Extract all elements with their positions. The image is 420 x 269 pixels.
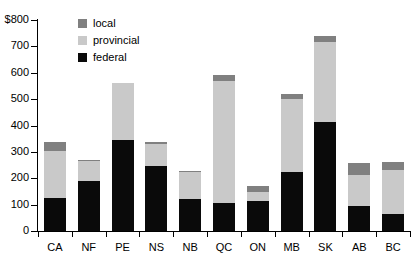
x-axis-tick [106, 232, 107, 237]
bar-qc[interactable] [213, 75, 235, 231]
bar-bc[interactable] [382, 162, 404, 231]
x-axis-label-sk: SK [308, 241, 342, 253]
legend-swatch-icon [78, 53, 87, 62]
x-axis-label-ca: CA [38, 241, 72, 253]
x-axis-tick [139, 232, 140, 237]
y-axis-tick [31, 73, 37, 74]
y-axis-tick-label: 600 [11, 67, 29, 78]
bar-pe[interactable] [112, 83, 134, 231]
x-axis-tick [38, 232, 39, 237]
bar-segment-federal [213, 203, 235, 231]
bar-sk[interactable] [314, 36, 336, 231]
x-axis-tick [376, 232, 377, 237]
bar-segment-provincial [179, 172, 201, 198]
y-axis-tick [31, 231, 37, 232]
bar-mb[interactable] [281, 94, 303, 231]
bar-segment-federal [382, 214, 404, 231]
legend-label: provincial [93, 35, 139, 46]
bar-segment-local [78, 160, 100, 161]
y-axis-tick [31, 20, 37, 21]
x-axis-label-qc: QC [207, 241, 241, 253]
bar-ca[interactable] [44, 142, 66, 231]
bar-segment-provincial [382, 170, 404, 214]
legend-label: local [93, 18, 116, 29]
bar-segment-federal [44, 198, 66, 231]
bar-segment-federal [314, 122, 336, 231]
y-axis-tick [31, 178, 37, 179]
bar-segment-provincial [112, 83, 134, 140]
x-axis-label-mb: MB [275, 241, 309, 253]
bar-ns[interactable] [145, 142, 167, 231]
bar-segment-federal [348, 206, 370, 231]
x-axis-label-nb: NB [173, 241, 207, 253]
legend-swatch-icon [78, 19, 87, 28]
bar-segment-provincial [213, 81, 235, 204]
bar-segment-provincial [145, 144, 167, 166]
legend-swatch-icon [78, 36, 87, 45]
legend-item-provincial[interactable]: provincial [78, 33, 139, 48]
bar-segment-provincial [44, 151, 66, 198]
y-axis-tick-label: 200 [11, 172, 29, 183]
bar-segment-provincial [281, 99, 303, 172]
y-axis-tick-label: 0 [23, 225, 29, 236]
bar-segment-local [179, 171, 201, 173]
x-axis-label-on: ON [241, 241, 275, 253]
y-axis-tick [31, 46, 37, 47]
y-axis-tick-label: $800 [5, 14, 29, 25]
bar-segment-federal [112, 140, 134, 231]
x-axis-label-pe: PE [106, 241, 140, 253]
bar-segment-federal [78, 181, 100, 231]
bar-segment-local [145, 142, 167, 144]
bar-nf[interactable] [78, 160, 100, 231]
legend-item-local[interactable]: local [78, 16, 139, 31]
x-axis-tick [72, 232, 73, 237]
legend-item-federal[interactable]: federal [78, 50, 139, 65]
x-axis-tick [309, 232, 310, 237]
bar-segment-local [247, 186, 269, 192]
bar-segment-provincial [78, 161, 100, 182]
x-axis-tick [241, 232, 242, 237]
y-axis-tick-label: 700 [11, 40, 29, 51]
y-axis-tick [31, 99, 37, 100]
x-axis-tick [275, 232, 276, 237]
x-axis-line [37, 231, 411, 232]
y-axis-tick-label: 100 [11, 199, 29, 210]
x-axis-tick [173, 232, 174, 237]
bar-segment-local [314, 36, 336, 43]
y-axis-tick-label: 300 [11, 146, 29, 157]
y-axis-tick [31, 152, 37, 153]
y-axis-tick [31, 205, 37, 206]
bar-nb[interactable] [179, 171, 201, 231]
y-axis-tick-label: 500 [11, 93, 29, 104]
bar-segment-local [213, 75, 235, 81]
x-axis-label-nf: NF [72, 241, 106, 253]
legend: localprovincialfederal [78, 16, 139, 67]
legend-label: federal [93, 52, 127, 63]
bar-segment-provincial [314, 42, 336, 121]
y-axis-tick-label: 400 [11, 120, 29, 131]
x-axis-label-ns: NS [139, 241, 173, 253]
stacked-bar-chart: $8007006005004003002001000 CANFPENSNBQCO… [0, 0, 420, 269]
bar-segment-federal [145, 166, 167, 231]
x-axis-tick [207, 232, 208, 237]
x-axis-label-ab: AB [342, 241, 376, 253]
x-axis-label-bc: BC [376, 241, 410, 253]
bar-segment-federal [281, 172, 303, 231]
bar-segment-local [281, 94, 303, 99]
bar-segment-provincial [247, 192, 269, 200]
y-axis-tick [31, 126, 37, 127]
x-axis-tick [410, 232, 411, 237]
bar-segment-local [382, 162, 404, 170]
bar-segment-federal [247, 201, 269, 231]
bar-segment-local [348, 163, 370, 175]
x-axis-tick [342, 232, 343, 237]
bar-ab[interactable] [348, 163, 370, 231]
bar-on[interactable] [247, 186, 269, 231]
bar-segment-federal [179, 199, 201, 231]
bar-segment-provincial [348, 175, 370, 207]
bar-segment-local [44, 142, 66, 150]
y-axis-labels: $8007006005004003002001000 [0, 0, 29, 269]
